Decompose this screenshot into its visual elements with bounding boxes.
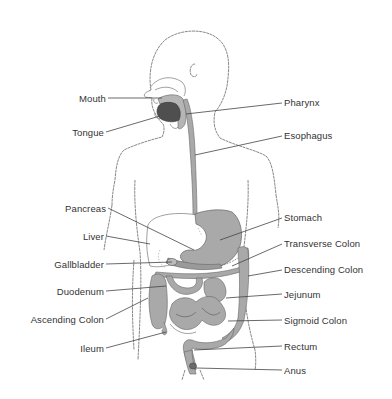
label-rectum: Rectum [284, 341, 317, 352]
label-descending-colon: Descending Colon [284, 264, 363, 275]
label-jejunum: Jejunum [284, 289, 321, 300]
label-pancreas: Pancreas [65, 203, 106, 214]
label-ascending-colon: Ascending Colon [31, 314, 104, 325]
label-pharynx: Pharynx [284, 97, 320, 108]
label-liver: Liver [83, 231, 104, 242]
ascending-colon-shape [149, 274, 167, 329]
label-sigmoid-colon: Sigmoid Colon [284, 315, 347, 326]
tongue-shape [157, 102, 180, 121]
anus-shape [190, 363, 197, 369]
label-anus: Anus [284, 365, 306, 376]
duodenum-shape [166, 276, 203, 294]
label-gallbladder: Gallbladder [54, 259, 104, 270]
label-mouth: Mouth [79, 93, 106, 104]
label-transverse-colon: Transverse Colon [284, 238, 360, 249]
label-duodenum: Duodenum [57, 286, 104, 297]
label-tongue: Tongue [72, 127, 104, 138]
label-stomach: Stomach [284, 212, 322, 223]
label-ileum: Ileum [80, 343, 104, 354]
digestive-system-illustration [0, 0, 392, 399]
label-esophagus: Esophagus [284, 130, 332, 141]
